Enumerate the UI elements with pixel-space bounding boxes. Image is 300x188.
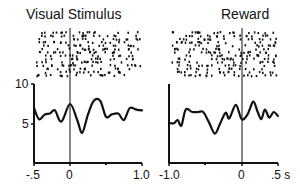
right-x-tick-label-0: 0 bbox=[238, 168, 245, 182]
right-panel-title: Reward bbox=[221, 6, 269, 22]
right-firing-rate-curve bbox=[169, 102, 278, 134]
figure bbox=[0, 0, 300, 188]
right-x-tick-label-neg1: -1.0 bbox=[159, 168, 180, 182]
left-panel-title: Visual Stimulus bbox=[26, 6, 121, 22]
y-tick-label-10: 10 bbox=[15, 77, 28, 91]
y-tick-label-5: 5 bbox=[22, 117, 29, 131]
right-x-tick-label-05s: .5 s bbox=[271, 168, 290, 182]
left-x-tick-label-0: 0 bbox=[66, 168, 73, 182]
raster-plot-left bbox=[36, 31, 141, 77]
raster-plot-right bbox=[172, 31, 278, 77]
left-x-tick-label-1: 1.0 bbox=[133, 168, 150, 182]
left-x-tick-label-neg05: -.5 bbox=[26, 168, 40, 182]
left-firing-rate-curve bbox=[34, 99, 142, 133]
